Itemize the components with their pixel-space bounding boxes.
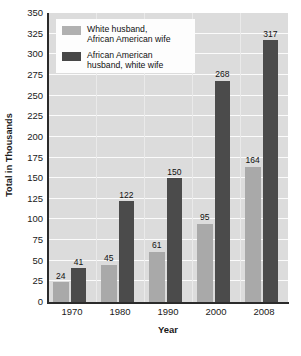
- bar-value-label: 24: [53, 272, 69, 281]
- bar: [167, 178, 183, 302]
- x-axis-tick-labels: 19701980199020002008: [48, 306, 288, 322]
- y-axis-tick-label: 150: [27, 173, 43, 183]
- y-axis-tick-label: 300: [27, 50, 43, 60]
- y-axis-title-label: Total in Thousands: [4, 113, 14, 197]
- y-axis-tick-label: 50: [32, 256, 43, 266]
- bar-value-label: 150: [167, 168, 183, 177]
- y-axis-line: [47, 13, 49, 303]
- bar: [263, 40, 279, 302]
- gridline-vertical: [240, 13, 241, 302]
- y-axis-tick-labels: 0255075100125150175200225250275300325350: [18, 13, 46, 302]
- bar-value-label: 164: [245, 156, 261, 165]
- y-axis-tick-label: 75: [32, 235, 43, 245]
- legend-item-label: White husband, African American wife: [87, 24, 171, 45]
- bar-value-label: 61: [149, 241, 165, 250]
- bar: [119, 201, 135, 302]
- chart-legend: White husband, African American wifeAfri…: [56, 19, 195, 73]
- bar-chart: Total in Thousands 025507510012515017520…: [0, 0, 301, 356]
- bar-value-label: 41: [71, 258, 87, 267]
- y-axis-tick-label: 250: [27, 91, 43, 101]
- y-axis-tick-label: 275: [27, 70, 43, 80]
- gridline-horizontal: [48, 115, 288, 116]
- x-axis-line: [47, 302, 289, 304]
- bar-value-label: 317: [263, 30, 279, 39]
- x-axis-tick-label: 1980: [109, 306, 130, 317]
- legend-item: African American husband, white wife: [62, 50, 191, 71]
- bar: [53, 282, 69, 302]
- bar: [149, 252, 165, 302]
- y-axis-title: Total in Thousands: [0, 0, 18, 310]
- y-axis-tick-label: 350: [27, 8, 43, 18]
- bar: [71, 268, 87, 302]
- y-axis-tick-label: 0: [38, 297, 43, 307]
- x-axis-tick-label: 2008: [253, 306, 274, 317]
- legend-swatch-dark: [62, 52, 81, 61]
- bar-value-label: 268: [215, 70, 231, 79]
- x-axis-tick-label: 1970: [61, 306, 82, 317]
- bar-value-label: 45: [101, 254, 117, 263]
- bar: [101, 265, 117, 302]
- legend-item: White husband, African American wife: [62, 24, 191, 45]
- y-axis-tick-label: 100: [27, 215, 43, 225]
- bar-value-label: 122: [119, 191, 135, 200]
- y-axis-tick-label: 175: [27, 153, 43, 163]
- y-axis-tick-label: 325: [27, 29, 43, 39]
- bar-value-label: 95: [197, 213, 213, 222]
- gridline-horizontal: [48, 95, 288, 96]
- y-axis-tick-label: 200: [27, 132, 43, 142]
- x-axis-tick-label: 2000: [205, 306, 226, 317]
- bar: [245, 167, 261, 302]
- y-axis-tick-label: 225: [27, 111, 43, 121]
- y-axis-tick-label: 125: [27, 194, 43, 204]
- x-axis-title: Year: [48, 324, 288, 335]
- legend-item-label: African American husband, white wife: [87, 50, 163, 71]
- y-axis-tick-label: 25: [32, 277, 43, 287]
- bar: [197, 224, 213, 302]
- gridline-horizontal: [48, 136, 288, 137]
- bar: [215, 81, 231, 302]
- x-axis-tick-label: 1990: [157, 306, 178, 317]
- gridline-horizontal: [48, 74, 288, 75]
- legend-swatch-light: [62, 26, 81, 35]
